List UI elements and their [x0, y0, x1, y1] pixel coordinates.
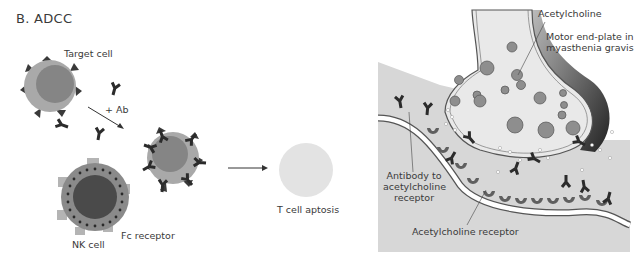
- target-cell: [20, 56, 82, 118]
- antibody-label-3: receptor: [383, 193, 445, 204]
- acetylcholine-label: Acetylcholine: [538, 9, 602, 20]
- plus-ab-label: + Ab: [105, 105, 129, 116]
- fc-receptor-label: Fc receptor: [121, 231, 175, 242]
- nk-cell: [57, 158, 130, 235]
- ach-receptor-label: Acetylcholine receptor: [412, 227, 519, 238]
- target-cell-label: Target cell: [64, 49, 113, 60]
- apoptotic-cell: [279, 143, 333, 197]
- diagram-canvas: [0, 0, 640, 267]
- t-cell-apoptosis-label: T cell aptosis: [277, 205, 339, 216]
- motor-endplate-label-2: myasthenia gravis: [546, 43, 634, 54]
- panel-title: B. ADCC: [16, 11, 72, 26]
- opsonized-target-cell: [141, 127, 206, 192]
- nk-cell-label: NK cell: [72, 240, 105, 251]
